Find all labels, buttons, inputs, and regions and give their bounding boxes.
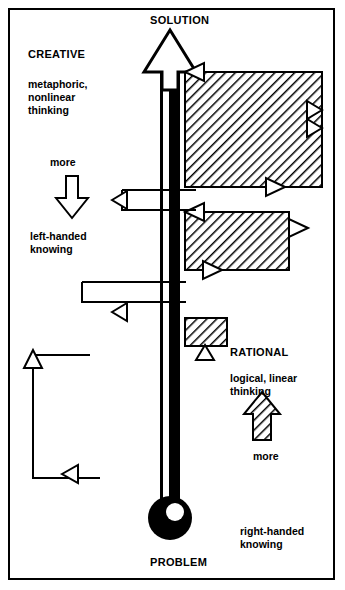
diagram-canvas: SOLUTION PROBLEM CREATIVE metaphoric, no…	[0, 0, 345, 590]
label-creative-description: metaphoric, nonlinear thinking	[28, 78, 88, 117]
label-solution: SOLUTION	[150, 14, 209, 28]
hatched-bar-2	[185, 203, 308, 279]
label-more-right: more	[253, 450, 279, 463]
label-more-left: more	[50, 156, 76, 169]
label-creative-heading: CREATIVE	[28, 48, 85, 62]
label-problem: PROBLEM	[150, 556, 207, 570]
label-rational-description: logical, linear thinking	[230, 372, 297, 398]
label-rational-heading: RATIONAL	[230, 346, 288, 360]
hatched-bar-1	[185, 63, 322, 196]
hatched-bar-3	[185, 318, 227, 360]
label-left-handed-knowing: left-handed knowing	[30, 230, 87, 256]
label-right-handed-knowing: right-handed knowing	[240, 525, 304, 551]
more-down-arrow-left	[56, 176, 88, 218]
more-up-arrow-right	[244, 392, 280, 440]
